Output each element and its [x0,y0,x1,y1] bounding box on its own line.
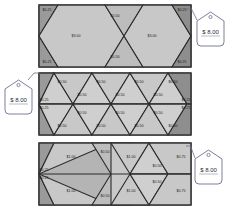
price-label: $0.50 [116,111,125,115]
price-label: $0.50 [78,93,87,97]
price-label: $0.50 [111,14,120,18]
price-label: $0.50 [97,80,106,84]
price-label: $0.25 [40,176,49,180]
price-label: $3.00 [72,34,81,38]
price-label: $0.50 [78,111,87,115]
price-label: $0.50 [135,80,144,84]
tag-price-text: $ 8.00 [10,97,27,103]
price-label: $0.50 [169,124,178,128]
price-label: $1.00 [67,155,76,159]
tag-price-text: $ 8.00 [200,167,217,173]
price-label: $0.50 [153,164,162,168]
price-label: $0.50 [58,124,67,128]
price-label: $0.25 [182,106,191,110]
price-label: $0.25 [40,98,49,102]
middle-tiling-panel: $0.50$0.50$0.50$0.50$0.50$0.50$0.50$0.25… [39,73,191,135]
price-label: $0.25 [182,98,191,102]
price-label: $1.00 [67,189,76,193]
price-label: $0.50 [153,180,162,184]
price-label: $0.50 [169,80,178,84]
price-label: $0.50 [154,93,163,97]
price-label: $1.00 [127,155,136,159]
top-tiling-panel: $0.25$0.50$3.00$3.00$0.50$0.25$0.25$0.25 [39,5,191,67]
price-label: $0.50 [154,111,163,115]
price-label: $1.00 [127,189,136,193]
price-label: $0.25 [178,60,187,64]
price-label: $0.25 [40,106,49,110]
diagram-canvas: $0.25$0.50$3.00$3.00$0.50$0.25$0.25$0.25… [0,0,229,213]
price-label: $0.50 [111,55,120,59]
price-label: $0.50 [101,194,110,198]
price-tag-top[interactable]: $ 8.00 [186,9,224,46]
price-label: $0.25 [40,168,49,172]
price-label: $0.50 [58,80,67,84]
price-label: $0.25 [178,8,187,12]
price-tag-middle[interactable]: $ 8.00 [5,73,40,114]
price-label: $0.75 [177,189,186,193]
price-label: $0.75 [177,155,186,159]
price-label: $3.00 [148,34,157,38]
price-label: $0.50 [116,93,125,97]
tag-price-text: $ 8.00 [202,29,219,35]
price-label: $0.50 [135,124,144,128]
bottom-tiling-panel: $1.00$0.50$1.00$0.50$0.75$0.25$0.25$1.00… [39,143,191,205]
price-label: $0.50 [97,124,106,128]
tag-leader-line [28,73,40,80]
price-label: $0.25 [43,8,52,12]
price-label: $0.25 [43,60,52,64]
price-label: $0.50 [101,150,110,154]
